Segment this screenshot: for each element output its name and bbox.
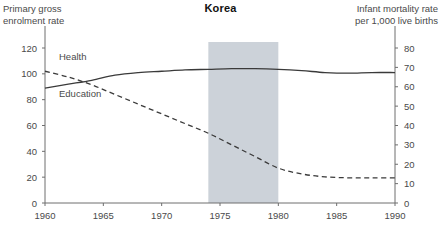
y2-tick-label: 40	[404, 120, 415, 131]
x-tick-label: 1965	[93, 210, 114, 221]
chart-container: Primary gross enrolment rate Korea Infan…	[0, 0, 441, 244]
y2-tick-label: 50	[404, 101, 415, 112]
y2-tick-label: 10	[404, 178, 415, 189]
shaded-band	[208, 42, 278, 203]
y2-tick-label: 0	[404, 198, 409, 209]
x-tick-label: 1990	[384, 210, 405, 221]
y-tick-label: 20	[26, 172, 37, 183]
y-tick-label: 120	[21, 43, 37, 54]
y2-tick-label: 20	[404, 159, 415, 170]
y-tick-label: 60	[26, 120, 37, 131]
x-tick-label: 1980	[268, 210, 289, 221]
x-tick-label: 1975	[209, 210, 230, 221]
x-tick-label: 1960	[34, 210, 55, 221]
y2-tick-label: 70	[404, 62, 415, 73]
y-tick-label: 80	[26, 94, 37, 105]
shaded-band-layer	[208, 42, 278, 203]
y2-tick-label: 30	[404, 139, 415, 150]
y-tick-label: 40	[26, 146, 37, 157]
y-tick-label: 0	[32, 198, 37, 209]
y2-tick-label: 80	[404, 43, 415, 54]
x-tick-label: 1985	[326, 210, 347, 221]
y2-tick-label: 60	[404, 81, 415, 92]
x-tick-label: 1970	[151, 210, 172, 221]
y-tick-label: 100	[21, 68, 37, 79]
series-annotation-layer: HealthEducation	[59, 51, 101, 99]
series-label-health: Health	[59, 51, 86, 62]
series-label-education: Education	[59, 88, 101, 99]
chart-plot-area: 0204060801001200102030405060708019601965…	[0, 0, 441, 244]
